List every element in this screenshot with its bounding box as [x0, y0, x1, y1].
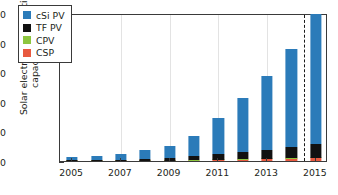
x-tick-2013 — [266, 158, 267, 162]
legend-label: CPV — [36, 35, 54, 46]
chart-legend: cSi PVTF PVCPVCSP — [18, 5, 72, 63]
bar-segment-tf-pv-2013 — [261, 150, 272, 159]
x-tick-label-2011: 2011 — [206, 167, 230, 178]
legend-label: cSi PV — [36, 10, 65, 21]
bar-segment-csp-2011 — [213, 160, 224, 161]
x-tick-label-2009: 2009 — [157, 167, 181, 178]
bar-2015 — [310, 14, 321, 161]
y-tick-label-100: 100 — [0, 97, 6, 108]
x-tick-2005 — [71, 158, 72, 162]
bar-segment-csi-pv-2006 — [91, 156, 102, 160]
bar-segment-csi-pv-2015 — [310, 14, 321, 144]
y-tick-label-250: 250 — [0, 9, 6, 20]
bar-segment-csp-2010 — [188, 160, 199, 161]
bar-segment-csi-pv-2012 — [237, 98, 248, 152]
bar-segment-csp-2012 — [237, 159, 248, 161]
bar-2007 — [115, 154, 126, 161]
bar-segment-csi-pv-2011 — [213, 118, 224, 154]
bar-segment-csi-pv-2014 — [286, 49, 297, 147]
bar-2005 — [67, 157, 78, 161]
y-tick-0 — [59, 162, 64, 163]
x-tick-2007 — [120, 158, 121, 162]
bar-segment-tf-pv-2011 — [213, 154, 224, 159]
y-tick-label-50: 50 — [0, 127, 6, 138]
legend-swatch-icon — [23, 24, 31, 32]
bar-segment-tf-pv-2010 — [188, 156, 199, 160]
bar-segment-tf-pv-2015 — [310, 144, 321, 158]
x-tick-2009 — [169, 158, 170, 162]
bar-2006 — [91, 156, 102, 161]
bar-2012 — [237, 98, 248, 161]
bar-segment-tf-pv-2014 — [286, 147, 297, 158]
bar-2014 — [286, 49, 297, 161]
bar-segment-tf-pv-2012 — [237, 152, 248, 159]
bar-segment-csp-2013 — [261, 159, 272, 161]
bar-segment-tf-pv-2008 — [140, 159, 151, 161]
bar-segment-csp-2014 — [286, 158, 297, 161]
x-tick-label-2005: 2005 — [59, 167, 83, 178]
x-tick-label-2013: 2013 — [254, 167, 278, 178]
bar-segment-csi-pv-2008 — [140, 150, 151, 159]
legend-item-csi-pv: cSi PV — [23, 9, 65, 22]
legend-swatch-icon — [23, 36, 31, 44]
bar-2011 — [213, 118, 224, 161]
bar-segment-csi-pv-2013 — [261, 76, 272, 150]
y-tick-label-150: 150 — [0, 68, 6, 79]
bar-2013 — [261, 76, 272, 161]
legend-swatch-icon — [23, 11, 31, 19]
x-tick-2015 — [315, 158, 316, 162]
bar-segment-tf-pv-2006 — [91, 160, 102, 161]
legend-label: TF PV — [36, 22, 62, 33]
bar-2008 — [140, 150, 151, 161]
legend-item-csp: CSP — [23, 47, 65, 60]
bar-series-group — [60, 15, 326, 161]
bar-segment-csi-pv-2007 — [115, 154, 126, 160]
bar-segment-csi-pv-2009 — [164, 146, 175, 158]
plot-area — [59, 14, 327, 162]
forecast-divider-line — [304, 15, 305, 161]
bar-segment-csi-pv-2005 — [67, 157, 78, 160]
legend-item-cpv: CPV — [23, 34, 65, 47]
y-tick-label-0: 0 — [0, 157, 6, 168]
bar-segment-csp-2015 — [310, 158, 321, 161]
bar-2009 — [164, 146, 175, 161]
x-tick-label-2015: 2015 — [303, 167, 327, 178]
x-tick-label-2007: 2007 — [108, 167, 132, 178]
bar-segment-csi-pv-2010 — [188, 136, 199, 157]
legend-swatch-icon — [23, 49, 31, 57]
x-tick-2011 — [217, 158, 218, 162]
bar-2010 — [188, 136, 199, 161]
legend-label: CSP — [36, 47, 54, 58]
bar-segment-tf-pv-2009 — [164, 158, 175, 161]
bar-segment-tf-pv-2007 — [115, 160, 126, 161]
solar-capacity-chart: Solar electricity generation capacity [G… — [0, 0, 338, 195]
y-tick-label-200: 200 — [0, 38, 6, 49]
legend-item-tf-pv: TF PV — [23, 22, 65, 35]
